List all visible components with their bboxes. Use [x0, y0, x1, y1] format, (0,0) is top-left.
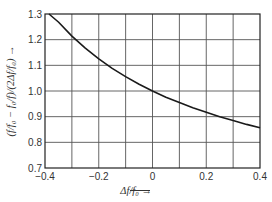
- x-tick-label: 0: [150, 171, 156, 182]
- y-tick-label: 1.1: [28, 60, 42, 71]
- chart: −0.4−0.200.20.4 0.70.80.91.01.11.21.3 Δf…: [0, 0, 272, 202]
- y-tick-label: 0.7: [28, 163, 42, 174]
- x-tick-label: 0.4: [253, 171, 267, 182]
- data-series: [49, 14, 260, 128]
- y-axis-label: (f/f₀ − f₀/f)/(2Δf/f₀) →: [5, 46, 17, 137]
- svg-text:(f/f₀ − f₀/f)/(2Δf/f₀) →: (f/f₀ − f₀/f)/(2Δf/f₀) →: [5, 46, 17, 137]
- y-tick-label: 1.3: [28, 9, 42, 20]
- x-tick-label: −0.2: [89, 171, 109, 182]
- y-axis-ticks: 0.70.80.91.01.11.21.3: [28, 9, 42, 174]
- y-tick-label: 1.0: [28, 86, 42, 97]
- x-axis-ticks: −0.4−0.200.20.4: [35, 171, 267, 182]
- curve-line: [49, 14, 260, 128]
- y-tick-label: 0.8: [28, 137, 42, 148]
- x-tick-label: 0.2: [199, 171, 213, 182]
- y-tick-label: 0.9: [28, 111, 42, 122]
- y-tick-label: 1.2: [28, 34, 42, 45]
